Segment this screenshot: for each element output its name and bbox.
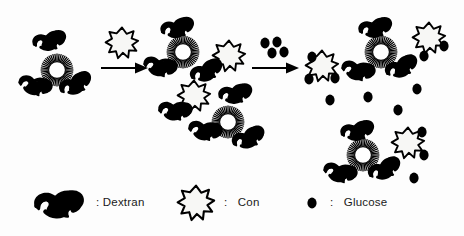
figure-canvas: : Dextran : Con : Glucose xyxy=(0,0,464,236)
legend-item-con: : Con xyxy=(224,196,260,208)
dextran-squiggle-icon xyxy=(339,119,376,143)
dextran-squiggle-icon xyxy=(31,29,68,53)
con-star-icon xyxy=(178,186,215,220)
dextran-squiggle-icon xyxy=(34,190,84,217)
legend-item-dextran: : Dextran xyxy=(96,196,144,208)
legend-separator: : xyxy=(330,196,333,208)
stage-1-small-complex xyxy=(16,29,95,99)
dextran-squiggle-icon xyxy=(157,99,193,121)
glucose-dot-icon xyxy=(279,47,288,58)
legend-item-glucose: : Glucose xyxy=(330,196,387,208)
arrow-2-shaft xyxy=(252,62,299,73)
glucose-dot-icon xyxy=(393,105,402,116)
dextran-squiggle-icon xyxy=(321,159,359,186)
glucose-dot-icon xyxy=(419,150,428,161)
glucose-dot-icon xyxy=(260,38,269,49)
stage-3-glucose-dissociated xyxy=(304,16,448,186)
glucose-dot-icon xyxy=(417,127,426,138)
legend-item-label: Dextran xyxy=(103,196,145,208)
arrow-2 xyxy=(252,37,299,74)
arrow-1 xyxy=(101,28,148,74)
legend-separator: : xyxy=(96,196,99,208)
glucose-dot-icon xyxy=(419,51,428,62)
glucose-dot-icon xyxy=(439,41,448,52)
glucose-dot-icon xyxy=(325,95,334,106)
dextran-squiggle-icon xyxy=(159,16,196,41)
legend-separator: : xyxy=(224,196,227,208)
glucose-dot-icon xyxy=(412,84,421,95)
glucose-dot-icon xyxy=(307,198,316,209)
legend-item-label: Con xyxy=(238,196,260,208)
glucose-dot-icon xyxy=(272,37,281,48)
dextran-squiggle-icon xyxy=(357,16,394,40)
stage-2-crosslinked-network xyxy=(141,16,268,153)
glucose-dot-icon xyxy=(304,74,313,85)
con-star-icon xyxy=(106,28,139,59)
glucose-dot-icon xyxy=(409,173,418,184)
legend-icons xyxy=(34,186,316,220)
glucose-dot-icon xyxy=(307,52,316,63)
arrow-1-shaft xyxy=(101,62,148,73)
dextran-squiggle-icon xyxy=(217,83,253,105)
glucose-dot-icon xyxy=(267,48,276,59)
glucose-dot-icon xyxy=(330,73,339,84)
legend-item-label: Glucose xyxy=(344,196,388,208)
glucose-dot-icon xyxy=(363,92,372,103)
